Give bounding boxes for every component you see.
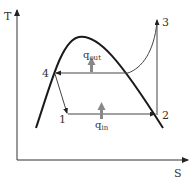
q-in-arrow-icon (98, 102, 106, 119)
q-out-label: qout (83, 49, 101, 62)
axes: T S (4, 10, 188, 180)
superheat-curve-to-3 (128, 22, 157, 73)
point-label-4: 4 (42, 67, 49, 80)
y-axis-label: T (4, 10, 12, 23)
x-axis-label: S (174, 167, 182, 180)
q-in-label: qin (95, 119, 109, 132)
point-label-3: 3 (162, 16, 169, 29)
process-line-4-1 (55, 74, 67, 113)
ts-diagram: T S qout qin 4 1 2 3 (0, 0, 196, 182)
point-label-2: 2 (162, 109, 169, 122)
point-label-1: 1 (59, 113, 66, 126)
